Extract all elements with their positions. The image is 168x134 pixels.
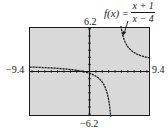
plot-area: [0, 0, 168, 134]
